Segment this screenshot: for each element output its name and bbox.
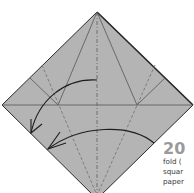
- caption-line-1: fold (: [163, 157, 185, 167]
- caption-line-3: paper: [163, 177, 185, 187]
- step-number: 20: [163, 140, 185, 157]
- step-caption: 20 fold ( squar paper: [163, 140, 185, 187]
- caption-line-2: squar: [163, 167, 185, 177]
